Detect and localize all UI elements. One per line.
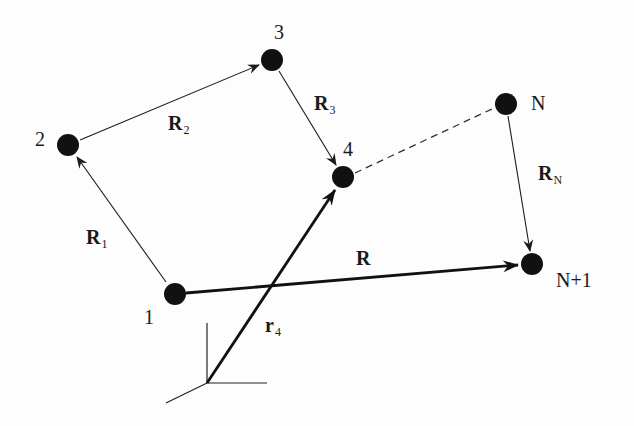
bond-RN-label: RN bbox=[538, 163, 562, 183]
bond-R3-arrow bbox=[279, 71, 336, 165]
bead-1-label: 1 bbox=[144, 307, 154, 327]
dashed-chain-continuation bbox=[355, 108, 494, 173]
bead-N-plus-1 bbox=[521, 253, 543, 275]
bead-3-label: 3 bbox=[274, 22, 284, 42]
bead-3 bbox=[261, 49, 283, 71]
bead-1 bbox=[164, 283, 186, 305]
bead-2-label: 2 bbox=[35, 129, 45, 149]
x-axis bbox=[166, 383, 207, 403]
beads bbox=[57, 49, 543, 305]
bead-4-label: 4 bbox=[343, 139, 353, 159]
coordinate-axes bbox=[166, 323, 267, 403]
bead-N-plus-1-label: N+1 bbox=[556, 270, 592, 290]
bond-vectors bbox=[77, 65, 530, 282]
end-to-end-vectors bbox=[186, 190, 518, 383]
bond-RN-arrow bbox=[508, 116, 530, 251]
end-to-end-R-arrow bbox=[186, 265, 518, 293]
bead-4 bbox=[332, 166, 354, 188]
bead-2 bbox=[57, 134, 79, 156]
bond-R2-label: R2 bbox=[168, 113, 189, 133]
diagram-graphics bbox=[0, 0, 634, 426]
bond-R3-label: R3 bbox=[314, 93, 335, 113]
position-r4-label: r4 bbox=[265, 315, 281, 335]
bond-R1-label: R1 bbox=[86, 227, 107, 247]
position-r4-arrow bbox=[207, 190, 335, 383]
bead-N bbox=[495, 93, 517, 115]
bead-N-label: N bbox=[531, 93, 545, 113]
chain-diagram: 1 2 3 4 N N+1 R1 R2 R3 RN R r4 bbox=[0, 0, 634, 426]
bond-R1-arrow bbox=[77, 157, 166, 282]
end-to-end-R-label: R bbox=[356, 248, 370, 268]
